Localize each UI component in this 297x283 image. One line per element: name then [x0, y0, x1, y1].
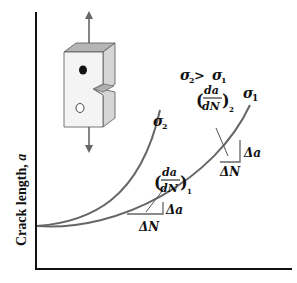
svg-text:dN: dN — [202, 100, 221, 113]
condition-label: σ 2 > σ 1 — [180, 67, 227, 85]
svg-text:da: da — [162, 166, 177, 179]
svg-text:2: 2 — [229, 105, 234, 114]
slope-label-2: ( da dN ) 2 — [196, 84, 234, 114]
svg-text:>: > — [194, 68, 205, 83]
svg-text:1: 1 — [187, 187, 192, 196]
svg-text:dN: dN — [160, 182, 179, 195]
slope-label-1: ( da dN ) 1 — [154, 166, 192, 196]
crack-growth-diagram: Crack length, a Δa ΔN ( da dN ) 1 Δa ΔN … — [0, 0, 297, 283]
delta-a-label-2: Δa — [243, 146, 261, 160]
svg-text:1: 1 — [221, 75, 227, 85]
specimen-icon — [64, 11, 115, 153]
svg-text:1: 1 — [252, 93, 258, 103]
svg-text:2: 2 — [162, 121, 168, 131]
y-axis-label: Crack length, a — [14, 154, 29, 246]
label-sigma1: σ 1 — [243, 85, 258, 103]
delta-a-label-1: Δa — [165, 203, 183, 217]
svg-text:da: da — [204, 84, 219, 97]
delta-N-label-2: ΔN — [219, 165, 241, 179]
open-hole-icon — [76, 104, 84, 113]
delta-N-label-1: ΔN — [138, 220, 160, 234]
filled-hole-icon — [79, 66, 87, 75]
label-sigma2: σ 2 — [153, 113, 168, 131]
